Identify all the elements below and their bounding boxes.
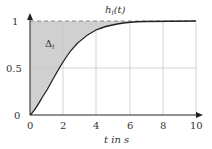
xtick-8: 8 — [160, 120, 166, 131]
x-axis-arrow-icon — [196, 112, 203, 118]
curve-label: hi(t) — [105, 4, 126, 17]
y-axis-arrow-icon — [27, 13, 33, 20]
xtick-4: 4 — [93, 120, 99, 131]
ytick-1: 1 — [12, 16, 18, 27]
x-axis-label: t in s — [104, 134, 129, 145]
xtick-2: 2 — [60, 120, 66, 131]
xtick-10: 10 — [190, 120, 203, 131]
xtick-0: 0 — [27, 120, 33, 131]
ytick-0: 0 — [14, 110, 20, 121]
ytick-0.5: 0.5 — [6, 63, 22, 74]
step-response-chart: 1 0.5 0 0 2 4 6 8 10 t in s hi(t) Δi — [0, 0, 212, 149]
xtick-6: 6 — [127, 120, 133, 131]
